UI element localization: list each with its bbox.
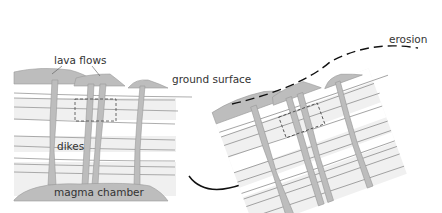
label-magma-chamber: magma chamber bbox=[54, 186, 145, 198]
geology-diagram: lava flows ground surface dikes magma ch… bbox=[0, 0, 442, 213]
left-panel: lava flows ground surface dikes magma ch… bbox=[14, 54, 251, 201]
label-lava-flows: lava flows bbox=[54, 54, 106, 66]
label-erosion: erosion bbox=[389, 33, 427, 45]
lava-flow-right bbox=[128, 80, 168, 88]
label-ground-surface: ground surface bbox=[172, 73, 251, 85]
label-dikes: dikes bbox=[57, 140, 84, 152]
